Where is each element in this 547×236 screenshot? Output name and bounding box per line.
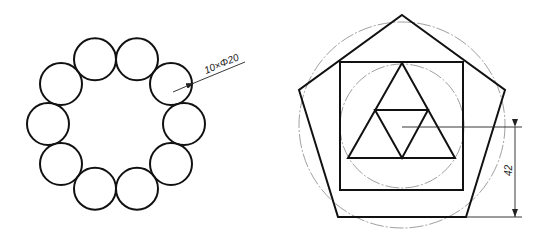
ring-circle [116, 168, 158, 210]
ring-circle [150, 63, 192, 105]
inner-triangle [375, 110, 428, 158]
dimension-value: 42 [503, 164, 514, 176]
ring-circle [27, 103, 69, 145]
technical-drawing: 10×Φ20 42 [0, 0, 547, 236]
ring-of-circles-figure [27, 38, 205, 209]
ring-circle [163, 103, 205, 145]
ring-circle [40, 143, 82, 185]
outer-centerline-circle [299, 22, 505, 228]
diameter-annotation: 10×Φ20 [202, 51, 240, 76]
ring-circle [74, 38, 116, 80]
inner-centerline-circle [340, 64, 464, 188]
pentagon [299, 15, 505, 217]
